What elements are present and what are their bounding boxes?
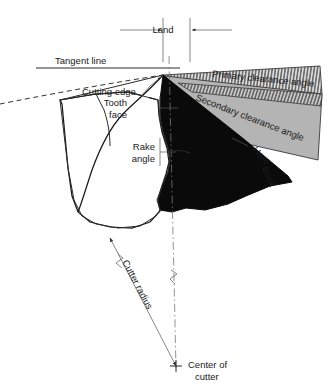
center-of-cutter-mark: [170, 360, 182, 372]
cutter-radius-label: Cutter radius: [120, 258, 155, 311]
center-of-cutter-label-line2: cutter: [195, 371, 219, 382]
cutting-edge-label: Cutting edge: [82, 86, 136, 97]
cutter-tooth-diagram: Tangent line Cutting edge Land Tooth fac…: [0, 0, 334, 387]
diagram-canvas: Tangent line Cutting edge Land Tooth fac…: [0, 0, 334, 387]
centerline-break: [170, 270, 177, 284]
rake-angle-label-line1: Rake: [133, 141, 155, 152]
tooth-face-label-line2: face: [109, 109, 127, 120]
tooth-face-label-line1: Tooth: [104, 97, 127, 108]
land-label: Land: [152, 24, 173, 35]
center-of-cutter-label-line1: Center of: [188, 359, 227, 370]
rake-angle-label-line2: angle: [132, 153, 155, 164]
land-dimension: [120, 18, 232, 62]
tangent-line-label: Tangent line: [55, 55, 106, 66]
